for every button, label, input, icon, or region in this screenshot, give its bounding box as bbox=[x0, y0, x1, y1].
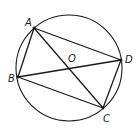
segment-cd bbox=[103, 60, 121, 108]
point-a bbox=[33, 27, 36, 30]
label-c: C bbox=[103, 113, 110, 124]
label-d: D bbox=[125, 54, 133, 65]
circle-geometry-diagram: A B C D O bbox=[0, 0, 138, 128]
segment-ab bbox=[18, 28, 34, 77]
point-d bbox=[120, 59, 123, 62]
diagram-canvas: A B C D O bbox=[0, 0, 138, 128]
label-o: O bbox=[68, 53, 76, 64]
label-b: B bbox=[8, 73, 15, 84]
point-b bbox=[17, 76, 20, 79]
label-a: A bbox=[24, 17, 32, 28]
point-c bbox=[102, 107, 105, 110]
